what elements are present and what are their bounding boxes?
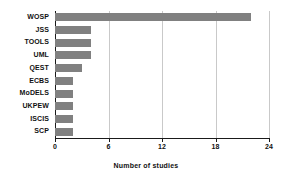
y-axis-tick-label: ISCIS (30, 113, 49, 126)
x-axis-tick (162, 139, 163, 142)
x-axis-tick-label: 18 (212, 143, 220, 150)
bar-row (55, 113, 269, 126)
x-axis-tick (216, 139, 217, 142)
bar-row (55, 125, 269, 138)
x-axis-tick (269, 139, 270, 142)
x-axis-tick-label: 12 (158, 143, 166, 150)
bar (55, 51, 91, 59)
y-axis-tick-label: QEST (30, 62, 49, 75)
bar-row (55, 75, 269, 88)
x-axis-tick-label: 24 (265, 143, 273, 150)
y-axis-tick-label: ECBS (29, 75, 49, 88)
bar-row (55, 100, 269, 113)
bar-row (55, 87, 269, 100)
bar-row (55, 36, 269, 49)
plot-area (55, 11, 269, 138)
bar-series (55, 11, 269, 138)
y-axis-tick-label: TOOLS (25, 36, 49, 49)
bar (55, 90, 73, 98)
bar (55, 77, 73, 85)
bar-row (55, 49, 269, 62)
bar (55, 64, 82, 72)
y-axis-tick-label: MoDELS (20, 87, 49, 100)
bar (55, 128, 73, 136)
y-axis-tick-label: UKPEW (22, 100, 49, 113)
bar (55, 102, 73, 110)
y-axis-tick-label: SCP (34, 125, 49, 138)
x-axis-title: Number of studies (0, 162, 292, 169)
x-axis-ticks: 06121824 (55, 139, 269, 153)
y-axis-tick-label: JSS (35, 24, 49, 37)
y-axis-tick-label: UML (34, 49, 49, 62)
bar-row (55, 11, 269, 24)
y-axis-tick-label: WOSP (27, 11, 49, 24)
bar (55, 26, 91, 34)
bar-row (55, 24, 269, 37)
gridline (269, 11, 270, 138)
bar (55, 115, 73, 123)
bar-chart: WOSPJSSTOOLSUMLQESTECBSMoDELSUKPEWISCISS… (0, 0, 292, 185)
x-axis-tick-label: 6 (107, 143, 111, 150)
bar (55, 39, 91, 47)
x-axis-tick (109, 139, 110, 142)
x-axis-tick-label: 0 (53, 143, 57, 150)
bar-row (55, 62, 269, 75)
x-axis-tick (55, 139, 56, 142)
bar (55, 13, 251, 21)
y-axis-category-labels: WOSPJSSTOOLSUMLQESTECBSMoDELSUKPEWISCISS… (0, 11, 52, 138)
